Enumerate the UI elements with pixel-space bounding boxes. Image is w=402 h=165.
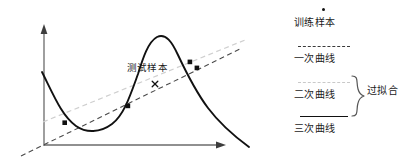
overfitting-figure: 测试样本 训练样本 一次曲线 二次曲线	[0, 0, 402, 165]
training-point	[195, 66, 200, 71]
legend-entry-cubic-curve: 三次曲线	[288, 110, 362, 135]
legend-key-linear-curve	[288, 40, 362, 52]
legend-entry-quadratic-curve: 二次曲线	[288, 76, 362, 101]
cubic-curve-solid-icon	[300, 116, 348, 117]
y-axis	[41, 24, 48, 146]
quadratic-curve-dash-icon	[298, 82, 350, 83]
cubic-curve	[42, 36, 249, 147]
test-sample-label: 测试样本	[127, 64, 168, 74]
legend-entry-training-sample: 训练样本	[288, 4, 362, 29]
legend-label-linear-curve: 一次曲线	[288, 52, 362, 65]
x-axis-arrow-icon	[216, 142, 226, 149]
legend-key-quadratic-curve	[288, 76, 362, 88]
test-sample-x-marker	[152, 81, 158, 87]
legend-label-training-sample: 训练样本	[288, 16, 362, 29]
training-sample-dot-icon	[322, 8, 325, 11]
legend-key-cubic-curve	[288, 110, 362, 122]
plot-canvas	[0, 0, 270, 165]
x-axis	[44, 142, 226, 149]
legend-entry-linear-curve: 一次曲线	[288, 40, 362, 65]
training-point	[126, 104, 131, 109]
legend-key-training-sample	[288, 4, 362, 16]
training-point	[62, 120, 67, 125]
legend-label-cubic-curve: 三次曲线	[288, 122, 362, 135]
y-axis-arrow-icon	[41, 24, 48, 34]
quadratic-curve	[43, 40, 245, 122]
brace-label-overfitting: 过拟合	[367, 84, 398, 97]
legend: 训练样本 一次曲线 二次曲线 三次曲线 过拟合	[288, 0, 402, 165]
linear-curve-dash-icon	[298, 46, 350, 47]
plot-area: 测试样本	[0, 0, 270, 165]
legend-label-quadratic-curve: 二次曲线	[288, 88, 362, 101]
training-point	[188, 60, 193, 65]
